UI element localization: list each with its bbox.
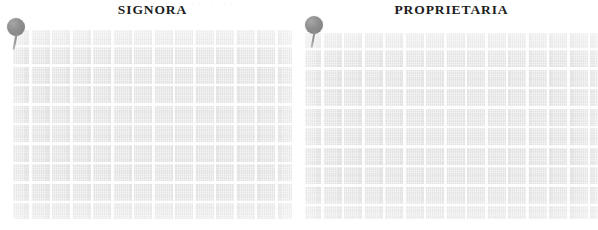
fabric-swatch-proprietaria [305,33,598,219]
scanned-page: · · · · · · · · · · · · · SIGNORA PROPRI… [0,0,598,230]
pin-marker-signora[interactable] [7,18,33,52]
panel-title-signora: SIGNORA [13,2,292,18]
panel-title-proprietaria: PROPRIETARIA [305,2,598,18]
pin-marker-proprietaria[interactable] [305,16,331,50]
swatch-panel-proprietaria: PROPRIETARIA [305,2,598,219]
swatch-panel-signora: SIGNORA [13,2,292,219]
fabric-swatch-signora [13,30,292,219]
